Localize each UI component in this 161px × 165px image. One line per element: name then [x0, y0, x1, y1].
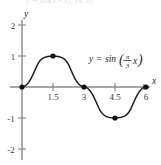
figure-container: y = sin(x - π), (4, 0) 2 1 -1 -2 1.5 3 4…: [0, 0, 161, 165]
x-axis-label: x: [151, 76, 157, 86]
equation-lhs: y: [88, 54, 94, 64]
equation-function: sin: [105, 54, 116, 64]
y-tick-label-neg1: -1: [7, 114, 15, 124]
point-zero-3: [81, 84, 86, 89]
sine-graph: 2 1 -1 -2 1.5 3 4.5 6 y x y = sin ( π 3: [0, 0, 161, 165]
y-tick-label-1: 1: [11, 52, 16, 62]
equation-label: y = sin ( π 3 x ): [88, 52, 143, 70]
y-tick-label-2: 2: [11, 21, 16, 31]
equation-paren-open: (: [119, 52, 125, 68]
point-origin: [19, 84, 24, 89]
x-tick-label-4p5: 4.5: [109, 92, 121, 102]
x-tick-label-3: 3: [82, 92, 87, 102]
point-max: [50, 53, 55, 58]
x-tick-label-6: 6: [144, 92, 149, 102]
point-min: [112, 115, 117, 120]
equation-denominator: 3: [125, 62, 130, 70]
y-axis-label: y: [23, 9, 29, 19]
x-tick-label-1p5: 1.5: [47, 92, 59, 102]
equation-paren-close: ): [137, 52, 143, 68]
y-tick-label-neg2: -2: [7, 145, 15, 155]
point-zero-6: [143, 84, 148, 89]
equation-numerator: π: [126, 53, 130, 61]
equation-equals: =: [96, 54, 102, 64]
